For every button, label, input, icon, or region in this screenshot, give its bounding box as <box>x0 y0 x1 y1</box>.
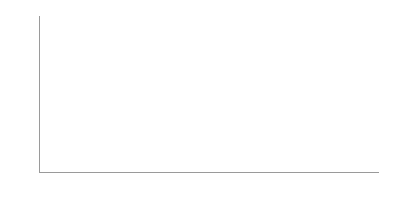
stacked-bar-chart <box>0 0 410 222</box>
x-axis-tick-labels <box>0 0 410 222</box>
